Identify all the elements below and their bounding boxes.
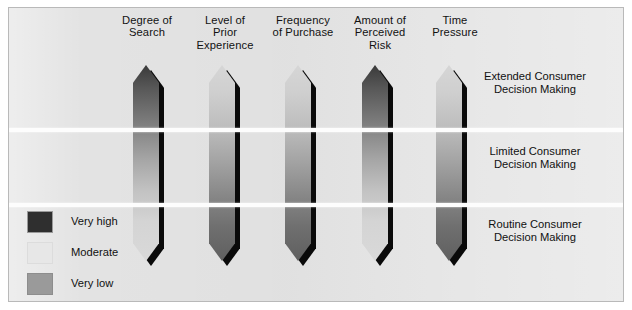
arrow-body xyxy=(362,65,388,261)
arrow-body xyxy=(209,65,235,261)
band-label-routine: Routine Consumer Decision Making xyxy=(460,218,610,245)
band-label-extended: Extended Consumer Decision Making xyxy=(460,70,610,97)
legend-swatch-icon xyxy=(27,242,53,264)
arrow-body xyxy=(436,65,462,261)
legend-label: Very low xyxy=(71,276,113,290)
legend-label: Moderate xyxy=(71,245,118,259)
legend-label: Very high xyxy=(71,214,118,228)
figure-root: Degree of Search Level of Prior Experien… xyxy=(0,0,632,310)
legend-swatch-icon xyxy=(27,273,53,295)
arrow-degree-of-search xyxy=(133,65,159,261)
band-label-limited: Limited Consumer Decision Making xyxy=(460,145,610,172)
arrow-amount-of-perceived-risk xyxy=(362,65,388,261)
diagram-panel: Degree of Search Level of Prior Experien… xyxy=(8,7,624,302)
arrow-body xyxy=(285,65,311,261)
legend-swatch-icon xyxy=(27,211,53,233)
arrow-level-of-prior-experience xyxy=(209,65,235,261)
arrow-frequency-of-purchase xyxy=(285,65,311,261)
divider-extended-limited xyxy=(9,128,623,132)
divider-limited-routine xyxy=(9,203,623,207)
arrow-time-pressure xyxy=(436,65,462,261)
column-header-time-pressure: Time Pressure xyxy=(401,14,509,39)
arrow-body xyxy=(133,65,159,261)
